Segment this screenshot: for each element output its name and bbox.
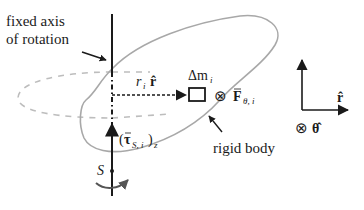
force-label-sub: θ, i	[243, 96, 255, 106]
rigid-body-rotation-diagram: fixed axis of rotation r i r̂ Δm i ⊗ F θ…	[0, 0, 364, 210]
torque-label-close: )	[148, 132, 153, 148]
force-label-F: F	[233, 89, 242, 104]
basis-rhat-label: r̂	[337, 90, 344, 105]
rigid-body-label: rigid body	[213, 140, 276, 156]
point-s-dot	[110, 169, 114, 173]
torque-label-tau: τ	[124, 132, 131, 147]
rigid-body-pointer-arrow	[209, 116, 222, 132]
mass-label-sub: i	[210, 75, 213, 85]
radius-label-rhat: r̂	[150, 74, 157, 89]
radius-label-r: r	[136, 74, 142, 89]
point-s-label: S	[97, 163, 104, 178]
otimes-icon: ⊗	[214, 88, 227, 104]
basis-otimes-icon: ⊗	[295, 120, 308, 136]
mass-label: Δm	[188, 68, 208, 83]
torque-label-z: z	[153, 140, 158, 150]
radius-label-sub: i	[143, 81, 146, 91]
basis-thetahat-label: θ̂	[312, 121, 322, 136]
mass-label-delta: Δm	[188, 68, 208, 83]
axis-label-line2: of rotation	[6, 31, 69, 47]
axis-pointer-arrow	[82, 52, 106, 60]
axis-label-line1: fixed axis	[6, 13, 65, 29]
rigid-body-outline	[80, 16, 278, 152]
torque-label-sub: S, i	[132, 140, 144, 150]
mass-element	[189, 88, 205, 101]
